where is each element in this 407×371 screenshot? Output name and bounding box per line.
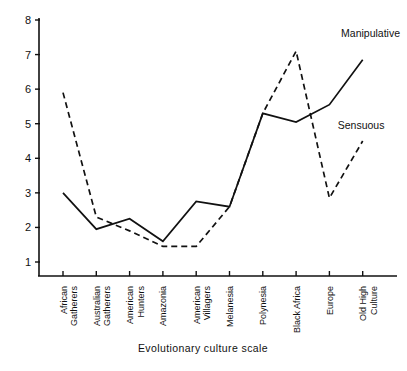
x-tick-label: Gatherers xyxy=(69,286,79,327)
y-tick-label: 3 xyxy=(25,187,31,199)
x-tick-label: Gatherers xyxy=(102,286,112,327)
x-tick-label: Polynesia xyxy=(258,286,268,325)
x-tick-label: Villagers xyxy=(202,286,212,321)
x-tick-label: Hunters xyxy=(136,286,146,318)
y-tick-label: 1 xyxy=(25,256,31,268)
y-tick-label: 2 xyxy=(25,221,31,233)
y-tick-label: 4 xyxy=(25,152,31,164)
x-axis-title: Evolutionary culture scale xyxy=(138,342,268,354)
x-tick-label: Melanesia xyxy=(225,286,235,327)
line-chart-svg: 12345678 AfricanGatherersAustralianGathe… xyxy=(0,0,407,371)
chart-figure: 12345678 AfricanGatherersAustralianGathe… xyxy=(0,0,407,371)
y-tick-label: 7 xyxy=(25,49,31,61)
series-label-sensuous: Sensuous xyxy=(338,119,385,131)
x-tick-label: American xyxy=(192,286,202,324)
x-tick-label: American xyxy=(125,286,135,324)
y-tick-label: 8 xyxy=(25,14,31,26)
x-tick-label: African xyxy=(59,286,69,314)
x-tick-label: Old High xyxy=(358,286,368,321)
x-tick-label: Culture xyxy=(369,286,379,315)
x-tick-label: Europe xyxy=(325,286,335,315)
series-label-manipulative: Manipulative xyxy=(341,27,400,39)
y-tick-label: 6 xyxy=(25,83,31,95)
x-tick-label: Australian xyxy=(92,286,102,326)
x-tick-label: Amazonia xyxy=(158,286,168,326)
y-tick-label: 5 xyxy=(25,118,31,130)
x-tick-label: Black Africa xyxy=(292,286,302,333)
